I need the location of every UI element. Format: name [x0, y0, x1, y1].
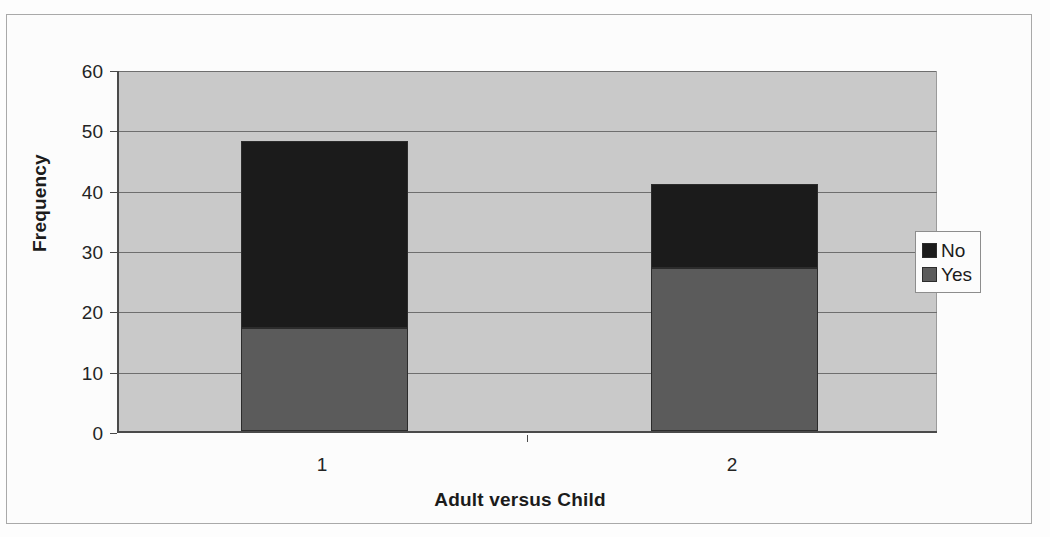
plot-area [117, 71, 937, 433]
x-tick-label: 2 [727, 455, 738, 474]
y-tick-label: 30 [59, 243, 103, 262]
y-tick-mark [110, 252, 117, 253]
x-axis-title: Adult versus Child [7, 489, 1033, 511]
y-tick-label: 40 [59, 182, 103, 201]
y-axis-title: Frequency [29, 154, 51, 252]
x-tick-label: 1 [317, 455, 328, 474]
plot-inner [119, 71, 937, 431]
legend-item-yes: Yes [922, 262, 972, 286]
chart-screenshot: Frequency 0102030405060 12 Adult versus … [0, 0, 1050, 537]
bar-segment-no [651, 184, 818, 268]
bar-segment-no [241, 141, 408, 328]
legend-swatch-no [922, 243, 937, 258]
bar-segment-yes [241, 328, 408, 431]
y-tick-mark [110, 192, 117, 193]
bar-stack [241, 69, 408, 431]
chart-frame: Frequency 0102030405060 12 Adult versus … [6, 14, 1032, 524]
y-tick-label: 60 [59, 62, 103, 81]
chart-legend: NoYes [915, 231, 981, 293]
y-tick-label: 20 [59, 303, 103, 322]
legend-swatch-yes [922, 267, 937, 282]
legend-label: No [941, 241, 965, 260]
bar-segment-yes [651, 268, 818, 431]
y-tick-mark [110, 373, 117, 374]
x-tick-mark [527, 435, 528, 442]
legend-label: Yes [941, 265, 972, 284]
y-tick-mark [110, 433, 117, 434]
bar-stack [651, 69, 818, 431]
y-tick-mark [110, 131, 117, 132]
y-tick-mark [110, 71, 117, 72]
y-tick-label: 10 [59, 363, 103, 382]
y-tick-mark [110, 312, 117, 313]
y-tick-label: 50 [59, 122, 103, 141]
y-tick-label: 0 [59, 424, 103, 443]
legend-item-no: No [922, 238, 972, 262]
